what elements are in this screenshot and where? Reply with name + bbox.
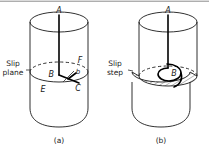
label-a-center-b: B [49, 70, 55, 79]
slip-plane-label-line2: plane [3, 68, 24, 77]
slip-step-label-line2: step [107, 68, 123, 77]
label-b-axis-top: A [164, 6, 170, 15]
slip-step-leader [128, 70, 133, 71]
spiral-dislocation-loop [158, 64, 181, 81]
label-b-center-b: B [171, 69, 177, 78]
label-a-front-c: C [75, 84, 81, 93]
label-a-front-e: E [40, 85, 46, 94]
panel-b: A B Slip step (b) [107, 6, 197, 145]
caption-a: (a) [54, 136, 65, 145]
cylinder-b-lower-body [132, 82, 190, 127]
slip-step-label-line1: Slip [108, 59, 122, 68]
slip-plane-figure: A B b F E C Slip plane (a) [0, 0, 209, 154]
caption-b: (b) [156, 136, 167, 145]
figure-root: A B b F E C Slip plane (a) [0, 0, 209, 154]
label-a-burgers-b: b [76, 68, 81, 76]
panel-a: A B b F E C Slip plane (a) [3, 6, 88, 145]
label-a-axis-top: A [55, 6, 61, 15]
slip-plane-label-line1: Slip [6, 59, 20, 68]
label-a-rear-f: F [78, 56, 83, 65]
